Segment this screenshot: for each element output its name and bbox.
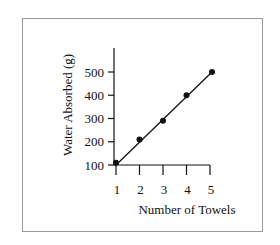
data-point [137,136,143,142]
x-tick-label: 1 [114,182,121,197]
data-point [160,118,166,124]
y-tick-label: 200 [85,134,105,149]
y-ticks: 100200300400500 [85,65,115,173]
x-tick-label: 5 [208,182,215,197]
x-tick-label: 2 [137,182,144,197]
chart-svg: 100200300400500 12345 Water Absorbed (g)… [0,0,280,245]
x-tick-label: 4 [184,182,191,197]
y-tick-label: 300 [85,111,105,126]
data-point [209,69,215,75]
data-point [184,92,190,98]
x-tick-label: 3 [161,182,168,197]
data-point [113,160,119,166]
y-tick-label: 100 [85,158,105,173]
x-ticks: 12345 [114,165,215,197]
y-tick-label: 500 [85,65,105,80]
x-axis-title: Number of Towels [138,202,235,217]
y-axis-title: Water Absorbed (g) [60,54,75,156]
y-tick-label: 400 [85,88,105,103]
